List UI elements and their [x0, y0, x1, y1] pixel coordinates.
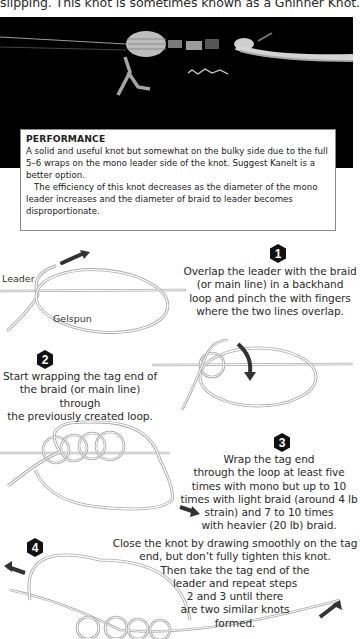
svg-text:4: 4: [32, 541, 39, 555]
step-2-badge-icon: 2: [36, 350, 54, 369]
leader-label: Leader: [2, 273, 35, 284]
gelspun-label: Gelspun: [53, 313, 92, 324]
svg-text:2: 2: [42, 353, 49, 367]
step-2-diagram: [152, 340, 353, 410]
step-4-text: Close the knot by drawing smoothly on th…: [112, 537, 358, 630]
step-3-text: Wrap the tag end through the loop at lea…: [180, 453, 358, 533]
step-3-diagram: [0, 422, 200, 517]
step-1-diagram: [0, 250, 185, 338]
step-2-text: Start wrapping the tag end of the braid …: [0, 370, 160, 423]
step-4-badge-icon: 4: [26, 538, 44, 557]
svg-text:1: 1: [275, 247, 282, 261]
step-3-badge-icon: 3: [273, 433, 291, 452]
svg-text:3: 3: [279, 436, 286, 450]
step-1-badge-icon: 1: [269, 244, 287, 263]
step-1-text: Overlap the leader with the braid (or ma…: [182, 265, 358, 318]
